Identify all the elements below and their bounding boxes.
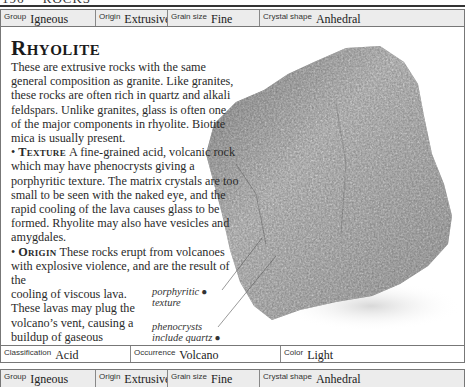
origin-cell: Origin Extrusive	[96, 10, 168, 26]
intro-paragraph: These are extrusive rocks with the same …	[11, 60, 239, 145]
bullet-icon: •	[11, 245, 15, 259]
annotation-line: phenocrysts	[152, 321, 202, 332]
group-label: Group	[4, 372, 26, 381]
classification-label: Classification	[4, 348, 51, 357]
origin-value: Extrusive	[124, 12, 168, 27]
running-head: 196 ROCKS	[2, 0, 91, 3]
top-rule	[0, 5, 465, 7]
occurrence-label: Occurrence	[134, 348, 175, 357]
group-cell: Group Igneous	[1, 370, 96, 387]
grain-size-value: Fine	[211, 12, 232, 27]
entry-body: These are extrusive rocks with the same …	[11, 60, 239, 358]
group-cell: Group Igneous	[1, 10, 96, 26]
occurrence-cell: Occurrence Volcano	[131, 346, 281, 362]
grain-size-cell: Grain size Fine	[168, 10, 260, 26]
annotation-line: include quartz	[152, 332, 212, 343]
group-value: Igneous	[30, 372, 68, 387]
texture-heading: Texture	[18, 145, 66, 159]
origin-cell: Origin Extrusive	[96, 370, 168, 387]
occurrence-value: Volcano	[179, 348, 218, 363]
annotation-porphyritic-texture: porphyritic● texture	[152, 286, 207, 308]
annotation-line: texture	[152, 297, 181, 308]
info-bar-top: Group Igneous Origin Extrusive Grain siz…	[0, 9, 465, 27]
pointer-dot-icon: ●	[201, 286, 207, 297]
grain-size-label: Grain size	[171, 12, 207, 21]
color-cell: Color Light	[281, 346, 464, 362]
bullet-icon: •	[11, 145, 15, 159]
annotation-phenocrysts: phenocrysts include quartz●	[152, 321, 220, 343]
texture-text: A fine-grained acid, volcanic rock which…	[11, 145, 239, 244]
texture-section: •TextureA fine-grained acid, volcanic ro…	[11, 145, 239, 244]
origin-value: Extrusive	[124, 372, 168, 387]
info-bar-next-entry: Group Igneous Origin Extrusive Grain siz…	[0, 369, 465, 387]
origin-label: Origin	[99, 12, 120, 21]
grain-size-value: Fine	[211, 372, 232, 387]
origin-label: Origin	[99, 372, 120, 381]
page-title: Rhyolite	[11, 36, 100, 61]
crystal-shape-label: Crystal shape	[263, 372, 312, 381]
crystal-shape-value: Anhedral	[316, 372, 361, 387]
color-value: Light	[307, 348, 333, 363]
classification-cell: Classification Acid	[1, 346, 131, 362]
crystal-shape-value: Anhedral	[316, 12, 361, 27]
group-value: Igneous	[30, 12, 68, 27]
classification-value: Acid	[55, 348, 78, 363]
grain-size-label: Grain size	[171, 372, 207, 381]
crystal-shape-cell: Crystal shape Anhedral	[260, 10, 464, 26]
info-bar-bottom: Classification Acid Occurrence Volcano C…	[0, 345, 465, 363]
grain-size-cell: Grain size Fine	[168, 370, 260, 387]
crystal-shape-label: Crystal shape	[263, 12, 312, 21]
group-label: Group	[4, 12, 26, 21]
crystal-shape-cell: Crystal shape Anhedral	[260, 370, 464, 387]
pointer-dot-icon: ●	[214, 332, 220, 343]
annotation-line: porphyritic	[152, 286, 199, 297]
color-label: Color	[284, 348, 303, 357]
origin-heading: Origin	[18, 245, 56, 259]
